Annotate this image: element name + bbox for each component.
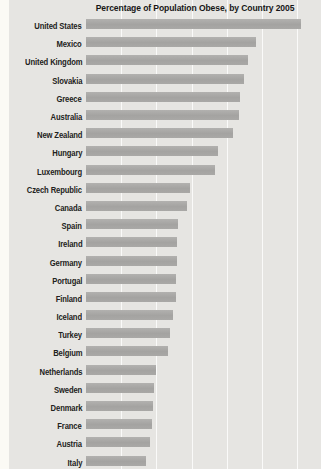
bar — [86, 146, 218, 156]
country-label: Spain — [9, 215, 86, 233]
plot-cell — [86, 33, 321, 51]
country-label: Italy — [9, 452, 86, 469]
country-label-text: France — [58, 421, 82, 431]
country-label-text: Czech Republic — [27, 185, 82, 195]
country-label: Australia — [9, 106, 86, 124]
bar — [86, 201, 187, 211]
bar — [86, 37, 256, 47]
plot-cell — [86, 233, 321, 251]
country-label-text: Luxembourg — [37, 167, 82, 177]
bar — [86, 237, 177, 247]
bar — [86, 256, 177, 266]
bar — [86, 219, 178, 229]
country-label-text: Canada — [55, 203, 82, 213]
country-label-text: United Kingdom — [25, 57, 82, 67]
country-label-text: Hungary — [52, 148, 82, 158]
country-label-text: Mexico — [57, 39, 82, 49]
plot-cell — [86, 361, 321, 379]
bar-rows: United StatesMexicoUnited KingdomSlovaki… — [9, 15, 321, 469]
country-label: Sweden — [9, 379, 86, 397]
country-label: Slovakia — [9, 70, 86, 88]
bar — [86, 437, 150, 447]
bar — [86, 383, 154, 393]
chart-title: Percentage of Population Obese, by Count… — [83, 2, 306, 13]
country-label: France — [9, 415, 86, 433]
country-label-text: Finland — [56, 294, 82, 304]
country-label-text: Ireland — [58, 239, 82, 249]
plot-cell — [86, 15, 321, 33]
plot-cell — [86, 433, 321, 451]
bar — [86, 19, 301, 29]
plot-cell — [86, 51, 321, 69]
bar-row: Denmark — [9, 397, 321, 415]
plot-cell — [86, 197, 321, 215]
plot-cell — [86, 270, 321, 288]
bar-row: France — [9, 415, 321, 433]
bar-row: Australia — [9, 106, 321, 124]
bar-row: Spain — [9, 215, 321, 233]
country-label: Portugal — [9, 270, 86, 288]
bar — [86, 328, 170, 338]
bar — [86, 128, 233, 138]
country-label: Turkey — [9, 324, 86, 342]
bar — [86, 74, 244, 84]
country-label: United States — [9, 15, 86, 33]
plot-cell — [86, 306, 321, 324]
bar-row: New Zealand — [9, 124, 321, 142]
bar — [86, 183, 190, 193]
country-label: Germany — [9, 252, 86, 270]
bar-row: Greece — [9, 88, 321, 106]
country-label: Czech Republic — [9, 179, 86, 197]
country-label: United Kingdom — [9, 51, 86, 69]
bar — [86, 365, 156, 375]
country-label-text: Spain — [62, 221, 82, 231]
bar-row: Belgium — [9, 342, 321, 360]
bar — [86, 456, 146, 466]
bar-row: United Kingdom — [9, 51, 321, 69]
bar-row: Ireland — [9, 233, 321, 251]
country-label-text: Sweden — [54, 385, 82, 395]
country-label-text: Netherlands — [39, 367, 82, 377]
bar — [86, 419, 152, 429]
country-label: Luxembourg — [9, 161, 86, 179]
plot-cell — [86, 452, 321, 469]
country-label-text: Greece — [57, 94, 82, 104]
bar-row: Iceland — [9, 306, 321, 324]
bar — [86, 55, 248, 65]
bar-row: Mexico — [9, 33, 321, 51]
country-label: Belgium — [9, 342, 86, 360]
country-label-text: Denmark — [50, 403, 82, 413]
country-label-text: United States — [35, 21, 82, 31]
bar-row: Netherlands — [9, 361, 321, 379]
bar-row: Sweden — [9, 379, 321, 397]
bar — [86, 92, 240, 102]
plot-cell — [86, 324, 321, 342]
country-label: Netherlands — [9, 361, 86, 379]
chart-panel: Percentage of Population Obese, by Count… — [9, 0, 321, 469]
country-label: Canada — [9, 197, 86, 215]
country-label: Finland — [9, 288, 86, 306]
plot-cell — [86, 70, 321, 88]
country-label-text: Portugal — [52, 276, 82, 286]
bar — [86, 165, 215, 175]
plot-cell — [86, 161, 321, 179]
country-label-text: Slovakia — [52, 76, 82, 86]
plot-cell — [86, 251, 321, 269]
bar — [86, 292, 176, 302]
bar-row: Czech Republic — [9, 179, 321, 197]
country-label: New Zealand — [9, 124, 86, 142]
bar-row: Luxembourg — [9, 161, 321, 179]
country-label: Greece — [9, 88, 86, 106]
country-label-text: Germany — [50, 258, 82, 268]
bar — [86, 274, 176, 284]
country-label: Hungary — [9, 142, 86, 160]
plot-cell — [86, 142, 321, 160]
country-label: Ireland — [9, 233, 86, 251]
bar — [86, 310, 173, 320]
country-label: Mexico — [9, 33, 86, 51]
plot-cell — [86, 215, 321, 233]
country-label-text: Australia — [50, 112, 82, 122]
plot-cell — [86, 288, 321, 306]
bar-row: Canada — [9, 197, 321, 215]
bar-row: Turkey — [9, 324, 321, 342]
